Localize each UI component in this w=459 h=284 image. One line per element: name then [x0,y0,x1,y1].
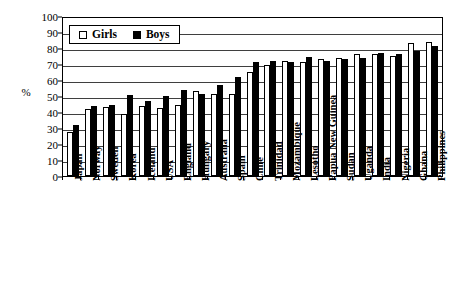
x-tick-mark [80,176,81,180]
x-tick-mark [207,176,208,180]
x-tick-mark [62,176,63,180]
x-axis-category-labels: JapanNorwaySwedenKoreaIcelandUSAEnglandH… [62,179,443,283]
x-tick-label-text: Ghana [419,151,429,181]
x-tick-label: Sweden [98,179,116,279]
x-tick-mark [189,176,190,180]
x-tick-label-text: Japan [74,154,84,181]
x-tick-label-text: Australia [219,139,229,181]
legend-item-boys: Boys [133,29,170,40]
x-tick-label-text: Sweden [110,147,120,181]
x-tick-mark [135,176,136,180]
x-tick-label: Sudan [334,179,352,279]
x-tick-label-text: Hungary [201,141,211,181]
x-tick-label-text: Iceland [147,148,157,181]
x-tick-label-text: Korea [128,153,138,181]
x-tick-label: Norway [80,179,98,279]
x-tick-mark [425,176,426,180]
x-tick-label: Lesotho [298,179,316,279]
x-tick-mark [225,176,226,180]
x-tick-label-text: Spain [237,155,247,181]
x-tick-mark [280,176,281,180]
x-tick-label: Uganda [352,179,370,279]
legend-item-girls: Girls [79,29,117,40]
bar-chart: % 1009080706050403020100 Girls Boys Japa… [0,0,459,284]
x-tick-mark [370,176,371,180]
x-tick-mark [153,176,154,180]
x-tick-label: Australia [207,179,225,279]
x-tick-label-text: Mozambique [292,122,302,181]
legend-swatch-boys-icon [133,31,141,39]
x-tick-label-text: India [382,157,392,181]
x-tick-mark [98,176,99,180]
x-tick-label: England [171,179,189,279]
x-tick-mark [389,176,390,180]
x-tick-mark [243,176,244,180]
x-tick-label-text: Chile [255,157,265,181]
legend-label-girls: Girls [92,29,117,40]
x-tick-label-text: Philippines [437,131,447,181]
x-tick-label-text: USA [165,160,175,181]
x-tick-mark [262,176,263,180]
x-tick-mark [352,176,353,180]
x-tick-label-text: Papua New Guinea [328,95,338,181]
x-tick-label: Chile [243,179,261,279]
x-tick-mark [334,176,335,180]
x-tick-label: Japan [62,179,80,279]
x-tick-label-text: Norway [92,145,102,181]
x-tick-label: Hungary [189,179,207,279]
x-tick-label: Mozambique [280,179,298,279]
x-tick-mark [298,176,299,180]
x-tick-label: USA [153,179,171,279]
x-tick-label: Spain [225,179,243,279]
legend-label-boys: Boys [146,29,170,40]
x-tick-label: Papua New Guinea [316,179,334,279]
x-tick-label: India [370,179,388,279]
x-tick-label: Ghana [407,179,425,279]
x-tick-label: Korea [116,179,134,279]
x-tick-label-text: England [183,143,193,181]
x-tick-label: Iceland [135,179,153,279]
x-tick-mark [116,176,117,180]
x-tick-label: Nigeria [389,179,407,279]
x-tick-mark [316,176,317,180]
x-tick-label-text: Uganda [364,146,374,181]
legend-swatch-girls-icon [79,31,87,39]
bar-group [244,18,262,176]
x-tick-label-text: Trinidad [274,142,284,182]
x-tick-mark [171,176,172,180]
x-tick-label-text: Lesotho [310,145,320,181]
x-tick-label: Philippines [425,179,443,279]
x-tick-label-text: Nigeria [401,148,411,181]
chart-legend: Girls Boys [69,25,180,44]
x-tick-mark [407,176,408,180]
x-tick-label: Trinidad [262,179,280,279]
x-tick-label-text: Sudan [346,152,356,181]
